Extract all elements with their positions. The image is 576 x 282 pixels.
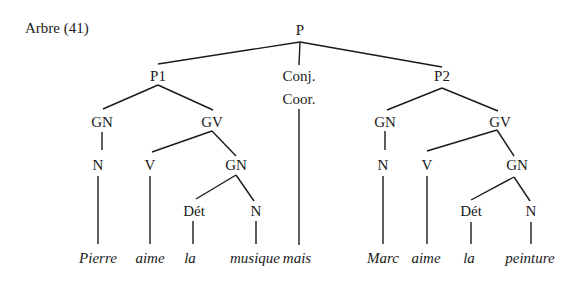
node-Det-1: Dét <box>183 203 205 219</box>
node-P1: P1 <box>150 68 166 84</box>
tree-edge <box>471 177 514 200</box>
node-N-4: N <box>526 203 537 219</box>
node-GN-subject-2: GN <box>374 114 396 130</box>
node-N-1: N <box>93 157 104 173</box>
tree-edge <box>387 88 442 110</box>
node-P2: P2 <box>434 68 450 84</box>
node-N-3: N <box>378 157 389 173</box>
tree-edge <box>196 175 236 199</box>
node-GN-object-1: GN <box>225 157 247 173</box>
tree-edge <box>497 130 514 156</box>
node-Det-2: Dét <box>460 203 482 219</box>
tree-edge <box>442 88 498 111</box>
node-N-2: N <box>251 203 262 219</box>
node-GN-subject-1: GN <box>91 114 113 130</box>
leaf-word: Marc <box>366 250 399 266</box>
node-coor: Coor. <box>283 91 316 107</box>
tree-edge <box>158 42 300 64</box>
node-GN-object-2: GN <box>506 157 528 173</box>
node-V-1: V <box>145 157 156 173</box>
tree-edge <box>427 130 497 151</box>
tree-edge <box>299 42 300 65</box>
leaf-word: la <box>463 250 475 266</box>
leaf-word: Pierre <box>78 250 117 266</box>
leaf-word: la <box>184 250 196 266</box>
syntax-tree: P P1 Conj. Coor. P2 GN GV N V GN Dét N G… <box>0 0 576 282</box>
node-conj: Conj. <box>283 68 316 84</box>
tree-nodes: P P1 Conj. Coor. P2 GN GV N V GN Dét N G… <box>91 22 536 219</box>
leaf-word: aime <box>135 250 165 266</box>
node-GV-1: GV <box>201 114 223 130</box>
tree-leaves: Pierre aime la musique mais Marc aime la… <box>78 250 555 266</box>
tree-edge <box>514 177 530 201</box>
tree-edge <box>158 85 213 110</box>
tree-edge <box>152 131 212 152</box>
leaf-word: aime <box>411 250 441 266</box>
tree-edge <box>300 42 442 67</box>
tree-edge <box>212 131 236 156</box>
tree-edge <box>236 175 254 201</box>
leaf-word: musique <box>230 250 280 266</box>
node-V-2: V <box>422 157 433 173</box>
node-P: P <box>296 22 304 38</box>
node-GV-2: GV <box>489 114 511 130</box>
leaf-word: mais <box>283 250 312 266</box>
tree-edge <box>103 85 158 109</box>
leaf-word: peinture <box>504 250 555 266</box>
